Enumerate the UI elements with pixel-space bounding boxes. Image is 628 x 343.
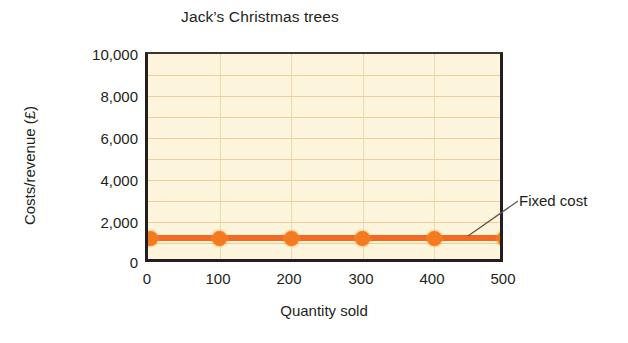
- y-tick-label: 2,000: [50, 214, 138, 231]
- data-point: [145, 231, 158, 246]
- y-tick-label: 0: [50, 254, 138, 271]
- chart-figure: Jack’s Christmas trees 10,000 8,000: [0, 0, 628, 343]
- y-tick-label: 4,000: [50, 172, 138, 189]
- x-tick-label: 200: [276, 270, 301, 287]
- series-line-fixed-cost: [148, 235, 500, 241]
- x-tick-label: 0: [143, 270, 151, 287]
- data-point: [355, 231, 370, 246]
- x-tick-label: 500: [490, 270, 515, 287]
- data-point: [427, 231, 442, 246]
- gridlines: [148, 54, 500, 259]
- y-tick-label: 6,000: [50, 130, 138, 147]
- plot-area: [145, 52, 503, 262]
- data-point: [212, 231, 227, 246]
- x-axis-title: Quantity sold: [145, 302, 503, 319]
- data-point: [284, 231, 299, 246]
- y-tick-label: 8,000: [50, 88, 138, 105]
- x-tick-label: 300: [348, 270, 373, 287]
- x-tick-label: 400: [419, 270, 444, 287]
- y-tick-label: 10,000: [50, 46, 138, 63]
- x-tick-label: 100: [205, 270, 230, 287]
- y-axis-title: Costs/revenue (£): [21, 61, 38, 271]
- y-axis-ticks: 10,000 8,000 6,000 4,000 2,000 0: [46, 0, 138, 343]
- annotation-fixed-cost: Fixed cost: [519, 192, 587, 209]
